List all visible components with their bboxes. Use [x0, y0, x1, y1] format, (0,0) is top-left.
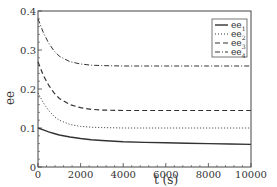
x-tick-label: 0: [35, 169, 41, 180]
x-axis-label: t (s): [154, 173, 178, 187]
x-axis-ticks: 0200040006000800010000: [35, 163, 267, 180]
y-axis-label: ee: [3, 91, 17, 105]
y-tick-label: 0.4: [20, 6, 36, 17]
line-chart: 00.10.20.30.4 0200040006000800010000 ee …: [0, 0, 277, 187]
x-tick-label: 8000: [196, 169, 221, 180]
x-tick-label: 2000: [68, 169, 93, 180]
y-tick-label: 0.2: [20, 84, 36, 95]
x-tick-label: 4000: [110, 169, 135, 180]
series-ee3: [38, 62, 251, 111]
x-tick-label: 10000: [235, 169, 267, 180]
legend: ee1ee2ee3ee4: [212, 19, 247, 59]
series-ee1: [38, 128, 251, 144]
y-tick-label: 0.3: [20, 45, 36, 56]
y-tick-label: 0.1: [20, 123, 36, 134]
y-axis-ticks: 00.10.20.30.4: [20, 6, 42, 173]
